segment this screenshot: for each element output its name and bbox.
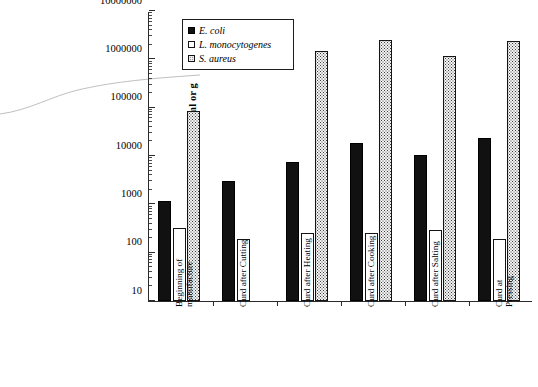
legend-item: E. coli bbox=[188, 23, 287, 37]
bar-chart: Cfu/ml or g 1010010001000010000010000001… bbox=[0, 0, 538, 387]
x-axis-category-label: Curd after Cutting bbox=[239, 240, 249, 307]
bar-ecoli bbox=[414, 155, 427, 301]
bar-saureus bbox=[443, 56, 456, 301]
bar-ecoli bbox=[286, 162, 299, 301]
legend-swatch-ecoli bbox=[188, 27, 195, 34]
x-axis-separator-tick bbox=[213, 301, 214, 306]
y-axis-tick-label: 100 bbox=[126, 237, 142, 248]
x-axis-category-label: Curd after Heating bbox=[303, 238, 313, 307]
x-axis-category-label: Curd after Salting bbox=[431, 241, 441, 307]
bar-ecoli bbox=[350, 143, 363, 301]
bar-saureus bbox=[379, 40, 392, 301]
legend-item: L. monocytogenes bbox=[188, 37, 287, 51]
y-axis-tick-label: 10 bbox=[132, 285, 143, 296]
x-axis-separator-tick bbox=[341, 301, 342, 306]
y-axis-tick-label: 10000 bbox=[116, 140, 142, 151]
bar-saureus bbox=[315, 51, 328, 301]
bar-ecoli bbox=[222, 181, 235, 301]
bar-saureus bbox=[507, 41, 520, 301]
legend: E. coli L. monocytogenes S. aureus bbox=[182, 19, 294, 70]
x-axis-category-label: Curd after Cooking bbox=[367, 236, 377, 307]
bar-ecoli bbox=[158, 201, 171, 301]
legend-item: S. aureus bbox=[188, 51, 287, 65]
y-axis-tick-label: 1000000 bbox=[105, 44, 142, 55]
bar-group bbox=[469, 12, 533, 301]
x-axis-separator-tick bbox=[405, 301, 406, 306]
x-axis-category-label: Beginning of manufacture bbox=[175, 259, 195, 307]
legend-swatch-saureus bbox=[188, 55, 195, 62]
x-axis-category-label: Curd at Pressing bbox=[495, 270, 515, 307]
x-axis-separator-tick bbox=[469, 301, 470, 306]
y-axis-tick-label: 10000000 bbox=[100, 0, 142, 6]
legend-label-ecoli: E. coli bbox=[199, 25, 225, 36]
legend-label-lmonocytogenes: L. monocytogenes bbox=[199, 39, 271, 50]
legend-swatch-lmonocytogenes bbox=[188, 41, 195, 48]
y-axis-major-tick bbox=[149, 10, 155, 11]
x-axis-separator-tick bbox=[277, 301, 278, 306]
bar-ecoli bbox=[478, 138, 491, 301]
legend-label-saureus: S. aureus bbox=[199, 53, 236, 64]
y-axis-tick-label: 1000 bbox=[121, 189, 142, 200]
y-axis-tick-label: 100000 bbox=[111, 92, 143, 103]
